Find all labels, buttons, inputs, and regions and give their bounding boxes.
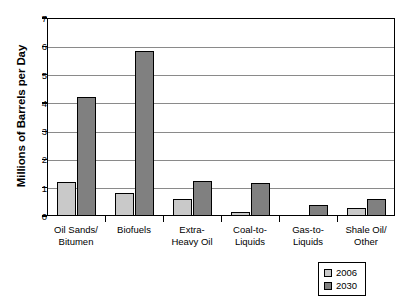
category-label-line: Oil Sands/: [47, 224, 105, 236]
y-tick-label: 0: [7, 211, 47, 222]
gridline: [48, 160, 394, 161]
category-label-line: Heavy Oil: [163, 236, 221, 248]
category-separator: [105, 216, 106, 222]
category-label-4: Gas-to-Liquids: [279, 224, 337, 247]
category-label-line: Gas-to-: [279, 224, 337, 236]
gridline: [48, 132, 394, 133]
category-label-line: Liquids: [221, 236, 279, 248]
legend-label: 2006: [336, 267, 357, 278]
plot-area: [47, 18, 395, 216]
category-label-0: Oil Sands/Bitumen: [47, 224, 105, 247]
y-tick-label: 1: [7, 182, 47, 193]
category-label-line: Other: [337, 236, 395, 248]
gridline: [48, 47, 394, 48]
legend-entry-2030: 2030: [324, 279, 357, 292]
legend-entry-2006: 2006: [324, 266, 357, 279]
y-tick-label: 5: [7, 69, 47, 80]
category-separator: [221, 216, 222, 222]
category-label-line: Liquids: [279, 236, 337, 248]
y-tick-label: 3: [7, 126, 47, 137]
bar-chart-figure: Millions of Barrels per Day 01234567 Oil…: [0, 0, 410, 299]
y-tick-label: 2: [7, 154, 47, 165]
category-label-line: Biofuels: [105, 224, 163, 236]
category-label-2: Extra-Heavy Oil: [163, 224, 221, 247]
category-separator: [337, 216, 338, 222]
category-label-line: Coal-to-: [221, 224, 279, 236]
y-axis-ticks: 01234567: [0, 0, 47, 299]
legend-swatch-icon: [324, 282, 332, 290]
gridlines: [48, 19, 394, 215]
category-label-line: Extra-: [163, 224, 221, 236]
category-label-1: Biofuels: [105, 224, 163, 236]
category-separator: [163, 216, 164, 222]
category-separator: [279, 216, 280, 222]
y-tick-label: 7: [7, 13, 47, 24]
gridline: [48, 188, 394, 189]
legend-label: 2030: [336, 280, 357, 291]
category-label-3: Coal-to-Liquids: [221, 224, 279, 247]
legend-swatch-icon: [324, 269, 332, 277]
category-label-line: Shale Oil/: [337, 224, 395, 236]
category-label-line: Bitumen: [47, 236, 105, 248]
y-tick-label: 4: [7, 97, 47, 108]
gridline: [48, 75, 394, 76]
gridline: [48, 103, 394, 104]
legend: 20062030: [318, 262, 366, 296]
category-label-5: Shale Oil/Other: [337, 224, 395, 247]
y-tick-label: 6: [7, 41, 47, 52]
